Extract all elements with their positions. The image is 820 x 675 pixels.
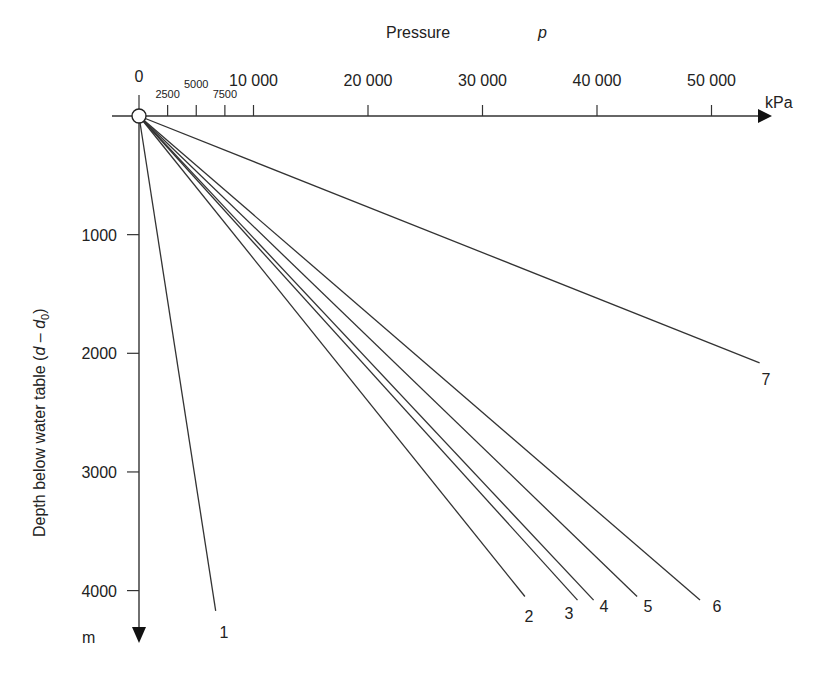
y-axis-title: Depth below water table (d – d0) <box>31 309 51 538</box>
series-line-6 <box>139 116 700 600</box>
series-label-6: 6 <box>713 598 722 615</box>
y-axis-arrow-icon <box>132 627 146 643</box>
series-label-5: 5 <box>644 598 653 615</box>
series-label-4: 4 <box>600 598 609 615</box>
series-line-5 <box>139 116 637 597</box>
x-ticks: 010 00020 00030 00040 00050 000250050007… <box>135 68 737 116</box>
y-tick-label: 1000 <box>81 227 117 244</box>
y-ticks: 1000200030004000 <box>81 227 139 600</box>
series-line-7 <box>139 116 760 363</box>
x-minor-tick-label: 5000 <box>184 78 208 90</box>
y-axis-title-suffix: ) <box>31 309 48 314</box>
series-line-2 <box>139 116 525 597</box>
y-tick-label: 2000 <box>81 345 117 362</box>
series-line-1 <box>139 116 216 611</box>
pressure-depth-chart: Pressure p 010 00020 00030 00040 00050 0… <box>0 0 820 675</box>
series-line-3 <box>139 116 578 600</box>
series-lines: 1234567 <box>139 116 771 641</box>
y-axis-title-prefix: Depth below water table ( <box>31 355 48 537</box>
x-axis-arrow-icon <box>758 109 772 123</box>
series-label-3: 3 <box>565 605 574 622</box>
x-tick-label: 20 000 <box>344 72 393 89</box>
x-tick-label: 30 000 <box>458 72 507 89</box>
y-axis-title-dash: – <box>31 329 48 347</box>
series-label-1: 1 <box>220 624 229 641</box>
y-tick-label: 4000 <box>81 583 117 600</box>
x-tick-label: 40 000 <box>573 72 622 89</box>
x-tick-label: 0 <box>135 68 144 85</box>
series-label-2: 2 <box>525 608 534 625</box>
x-minor-tick-label: 2500 <box>155 88 179 100</box>
y-axis: 1000200030004000 m <box>81 116 146 646</box>
x-axis-symbol: p <box>537 24 547 41</box>
x-axis: 010 00020 00030 00040 00050 000250050007… <box>112 68 793 123</box>
x-tick-label: 10 000 <box>229 72 278 89</box>
y-tick-label: 3000 <box>81 464 117 481</box>
y-unit-label: m <box>82 629 95 646</box>
x-unit-label: kPa <box>765 94 793 111</box>
series-line-4 <box>139 116 594 600</box>
x-minor-tick-label: 7500 <box>213 88 237 100</box>
x-axis-title: Pressure <box>386 24 450 41</box>
origin-marker <box>132 109 146 123</box>
x-tick-label: 50 000 <box>687 72 736 89</box>
series-label-7: 7 <box>762 371 771 388</box>
